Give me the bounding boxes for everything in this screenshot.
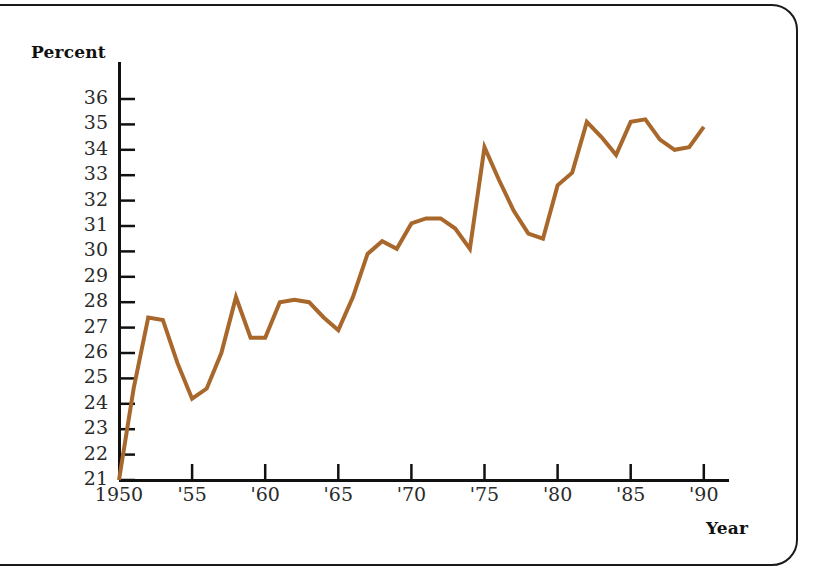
- figure-page: Percent Year 363534333231302928272625242…: [0, 0, 825, 573]
- x-axis-ticks: [192, 464, 704, 479]
- axis-lines: [119, 62, 729, 481]
- data-series-line: [119, 119, 704, 480]
- line-chart-plot: [0, 0, 825, 573]
